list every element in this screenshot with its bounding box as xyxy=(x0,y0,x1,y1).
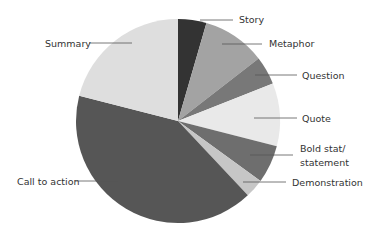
pie-slices xyxy=(76,19,280,223)
label-bold-line1: Bold stat/ xyxy=(300,143,346,154)
label-bold-line2: statement xyxy=(300,157,349,168)
label-demonstration: Demonstration xyxy=(292,177,363,188)
label-story: Story xyxy=(239,14,264,25)
pie-chart: Story Metaphor Question Quote Bold stat/… xyxy=(0,0,367,235)
label-summary: Summary xyxy=(45,38,91,49)
label-quote: Quote xyxy=(302,113,331,124)
label-call-to-action: Call to action xyxy=(17,176,80,187)
label-metaphor: Metaphor xyxy=(269,38,314,49)
label-question: Question xyxy=(302,70,345,81)
